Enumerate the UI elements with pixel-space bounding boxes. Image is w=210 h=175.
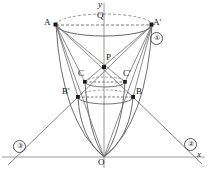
point-label-B: B: [136, 87, 142, 96]
circled-number-two: ②: [184, 138, 197, 151]
point-label-C-prime: C': [123, 69, 131, 78]
parabola-right-mid: [104, 82, 125, 157]
marker-C: [83, 80, 87, 84]
point-label-C: C: [78, 69, 84, 78]
parabola-left-inner: [78, 97, 104, 157]
point-label-A-prime: A': [153, 18, 161, 27]
figure-canvas: [0, 0, 210, 175]
ray-to-two: [133, 97, 202, 164]
marker-B: [131, 95, 135, 99]
middle-ellipse-back-arc: [85, 77, 125, 82]
circled-number-three: ③: [13, 140, 26, 153]
axis-label-y: y: [98, 0, 102, 9]
point-label-P: P: [106, 53, 111, 62]
axis-group: [2, 3, 205, 168]
parabola-left-mid: [85, 82, 104, 157]
marker-A: [54, 23, 58, 27]
marker-Cprime: [123, 80, 127, 84]
geometry-figure: y x A A' Q P C C' B' B O ① ② ③: [0, 0, 210, 175]
point-label-A: A: [44, 18, 51, 27]
marker-Bprime: [76, 95, 80, 99]
axis-label-x: x: [197, 150, 201, 159]
marker-P: [102, 65, 106, 69]
point-label-O: O: [98, 158, 105, 167]
middle-ellipse: [85, 77, 125, 87]
ray-to-three: [8, 97, 78, 165]
segment-Aprime-O: [104, 25, 152, 157]
point-label-B-prime: B': [62, 87, 70, 96]
circled-number-one: ①: [150, 32, 163, 45]
point-label-Q: Q: [97, 11, 104, 20]
